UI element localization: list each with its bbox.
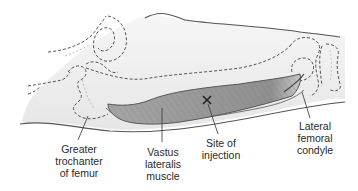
label-greater-trochanter-line3: of femur xyxy=(44,167,114,179)
label-site-of-injection: Site of injection xyxy=(196,137,246,161)
label-greater-trochanter-line1: Greater xyxy=(44,143,114,155)
label-vastus-lateralis-line1: Vastus xyxy=(138,146,188,158)
label-lateral-femoral-condyle: Lateral femoral condyle xyxy=(290,120,340,156)
label-lateral-femoral-condyle-line3: condyle xyxy=(290,144,340,156)
label-lateral-femoral-condyle-line2: femoral xyxy=(290,132,340,144)
label-greater-trochanter-line2: trochanter xyxy=(44,155,114,167)
label-greater-trochanter: Greater trochanter of femur xyxy=(44,143,114,179)
label-vastus-lateralis-line2: lateralis xyxy=(138,158,188,170)
label-lateral-femoral-condyle-line1: Lateral xyxy=(290,120,340,132)
label-vastus-lateralis: Vastus lateralis muscle xyxy=(138,146,188,182)
label-site-of-injection-line1: Site of xyxy=(196,137,246,149)
label-site-of-injection-line2: injection xyxy=(196,149,246,161)
label-vastus-lateralis-line3: muscle xyxy=(138,170,188,182)
